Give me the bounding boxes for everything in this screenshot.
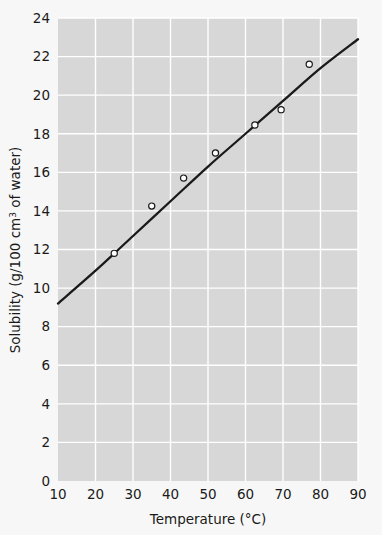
x-tick-label: 90 [349,486,366,502]
chart-svg: 024681012141618202224 102030405060708090… [0,0,382,535]
x-tick-label: 60 [237,486,254,502]
y-tick-label: 4 [41,396,50,412]
data-point [212,150,218,156]
y-tick-label: 22 [33,48,50,64]
x-tick-label: 70 [274,486,291,502]
data-point [149,203,155,209]
y-tick-label: 2 [41,434,50,450]
y-axis-title: Solubility (g/100 cm3 of water) [7,147,23,354]
x-tick-label: 50 [199,486,216,502]
x-axis-tick-labels: 102030405060708090 [49,486,366,502]
x-axis-title: Temperature (°C) [149,511,267,527]
x-tick-label: 20 [87,486,104,502]
y-tick-label: 10 [33,280,50,296]
y-axis-title-group: Solubility (g/100 cm3 of water) [7,147,23,354]
y-tick-label: 12 [33,241,50,257]
data-point [278,107,284,113]
y-axis-title-suffix: of water) [7,147,23,212]
y-tick-label: 24 [33,10,50,26]
y-tick-label: 8 [41,318,50,334]
data-point [252,122,258,128]
y-tick-label: 20 [33,87,50,103]
y-tick-label: 16 [33,164,50,180]
data-point [181,175,187,181]
x-tick-label: 10 [49,486,66,502]
solubility-vs-temperature-chart: 024681012141618202224 102030405060708090… [0,0,382,535]
y-tick-label: 18 [33,126,50,142]
x-tick-label: 80 [312,486,329,502]
data-point [306,61,312,67]
y-tick-label: 6 [41,357,50,373]
y-tick-label: 14 [33,203,50,219]
x-tick-label: 30 [124,486,141,502]
data-point [111,250,117,256]
y-axis-title-prefix: Solubility (g/100 cm [7,218,23,354]
x-tick-label: 40 [162,486,179,502]
